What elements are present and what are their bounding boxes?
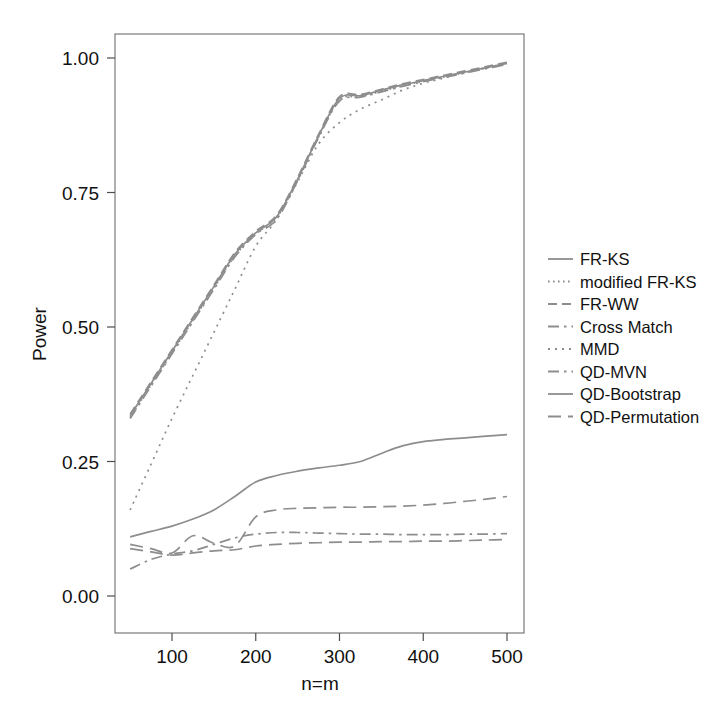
series-line-qd-permutation-low — [130, 540, 507, 556]
x-tick-label: 300 — [324, 646, 356, 667]
legend-label-fr-ww: FR-WW — [580, 295, 639, 313]
series-line-mmd — [130, 63, 507, 510]
x-tick-label: 400 — [407, 646, 439, 667]
legend-label-fr-ks: FR-KS — [580, 250, 630, 268]
series-line-qd-bootstrap — [130, 435, 507, 537]
y-tick-label: 1.00 — [62, 48, 99, 69]
power-vs-sample-size-chart: 0.000.250.500.751.00 100200300400500 Pow… — [0, 0, 720, 718]
chart-svg: 0.000.250.500.751.00 100200300400500 Pow… — [0, 0, 720, 718]
y-tick-label: 0.50 — [62, 317, 99, 338]
legend-label-qd-mvn: QD-MVN — [580, 363, 647, 381]
x-axis-title: n=m — [301, 673, 339, 694]
legend-label-modified-fr-ks: modified FR-KS — [580, 273, 696, 291]
legend-label-mmd: MMD — [580, 340, 619, 358]
y-axis-title: Power — [29, 306, 50, 361]
series-line-fr-ww — [130, 62, 507, 414]
x-tick-label: 200 — [240, 646, 272, 667]
series-line-modified-fr-ks — [130, 64, 507, 417]
legend-label-qd-bootstrap: QD-Bootstrap — [580, 385, 681, 403]
y-tick-label: 0.25 — [62, 452, 99, 473]
y-tick-label: 0.75 — [62, 183, 99, 204]
legend-label-qd-permutation: QD-Permutation — [580, 408, 699, 426]
series-lines — [130, 62, 507, 569]
series-line-qd-mvn — [130, 532, 507, 569]
x-tick-label: 100 — [156, 646, 188, 667]
series-line-fr-ks — [130, 63, 507, 415]
legend-label-cross-match: Cross Match — [580, 318, 673, 336]
y-tick-label: 0.00 — [62, 586, 99, 607]
y-axis-ticks: 0.000.250.500.751.00 — [62, 48, 115, 607]
x-tick-label: 500 — [491, 646, 523, 667]
series-line-qd-permutation — [130, 496, 507, 553]
chart-legend: FR-KSmodified FR-KSFR-WWCross MatchMMDQD… — [548, 250, 699, 426]
x-axis-ticks: 100200300400500 — [156, 633, 523, 667]
series-line-cross-match — [130, 64, 507, 418]
